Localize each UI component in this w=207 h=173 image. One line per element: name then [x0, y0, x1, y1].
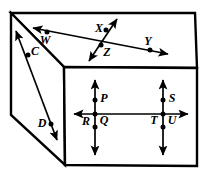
point-dot-X — [104, 28, 109, 33]
point-label-W: W — [40, 33, 52, 47]
point-dot-T — [161, 112, 166, 117]
point-label-C: C — [31, 44, 40, 58]
point-label-R: R — [81, 114, 90, 128]
point-dot-Y — [148, 48, 153, 53]
point-label-T: T — [150, 113, 158, 127]
geometry-figure: W X Y Z C D P Q R S T U — [0, 0, 207, 173]
point-dot-D — [49, 122, 54, 127]
point-dot-R — [93, 125, 98, 130]
point-label-Z: Z — [102, 45, 111, 59]
point-dot-C — [26, 53, 31, 58]
point-dot-S — [161, 98, 166, 103]
point-label-Q: Q — [100, 113, 109, 127]
point-label-P: P — [100, 91, 108, 105]
point-label-D: D — [37, 116, 47, 130]
point-label-U: U — [168, 113, 178, 127]
point-label-X: X — [94, 21, 104, 35]
point-dot-P — [93, 98, 98, 103]
point-dot-Q — [93, 112, 98, 117]
point-label-S: S — [169, 91, 176, 105]
point-dot-U — [161, 125, 166, 130]
geometry-diagram-canvas: W X Y Z C D P Q R S T U — [0, 0, 207, 173]
